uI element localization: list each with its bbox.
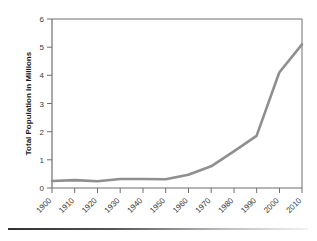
y-axis-title: Total Population in Millions [24, 51, 33, 155]
bottom-divider [8, 228, 308, 230]
plot-area-background [52, 19, 302, 188]
x-tick-label: 1960 [171, 196, 190, 215]
x-tick-label: 1980 [216, 196, 235, 215]
y-tick-label: 2 [40, 128, 45, 137]
x-tick-label: 2010 [284, 196, 303, 215]
y-tick-label: 3 [40, 100, 45, 109]
y-tick-label: 1 [40, 156, 45, 165]
x-axis-ticks [52, 188, 302, 193]
x-tick-label: 1900 [34, 196, 53, 215]
line-chart: 0 1 2 3 4 5 6 Total Population in Millio… [0, 0, 317, 241]
y-axis-tick-labels: 0 1 2 3 4 5 6 [40, 15, 45, 193]
y-axis-ticks [47, 19, 52, 188]
y-tick-label: 6 [40, 15, 45, 24]
x-tick-label: 1950 [148, 196, 167, 215]
chart-figure: 0 1 2 3 4 5 6 Total Population in Millio… [0, 0, 317, 241]
x-tick-label: 1990 [239, 196, 258, 215]
x-tick-label: 1940 [125, 196, 144, 215]
x-tick-label: 1970 [194, 196, 213, 215]
y-tick-label: 0 [40, 184, 45, 193]
y-tick-label: 4 [40, 71, 45, 80]
x-axis-tick-labels: 1900 1910 1920 1930 1940 1950 1960 1970 … [34, 196, 303, 215]
x-tick-label: 1920 [80, 196, 99, 215]
y-tick-label: 5 [40, 43, 45, 52]
x-tick-label: 2000 [262, 196, 281, 215]
x-tick-label: 1910 [57, 196, 76, 215]
x-tick-label: 1930 [103, 196, 122, 215]
